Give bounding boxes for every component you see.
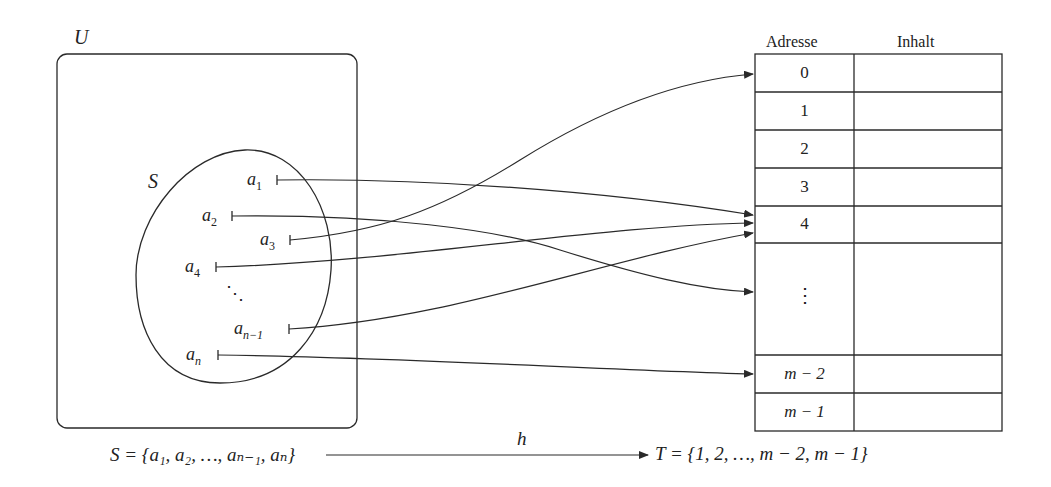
- arrow-a2: [232, 216, 753, 292]
- table-header-address: Adresse: [766, 33, 818, 51]
- domain-set-formula: S = {a₁, a₂, …, aₙ₋₁, aₙ}: [110, 443, 295, 466]
- element-sub: 4: [194, 266, 200, 280]
- table-cell-address: 0: [755, 63, 854, 83]
- element-an: an: [186, 344, 201, 369]
- table-header-content: Inhalt: [897, 33, 934, 51]
- function-label-h: h: [517, 428, 527, 450]
- element-a2: a2: [202, 205, 217, 230]
- table-cell-address: 2: [755, 139, 854, 159]
- table-cell-address: ⋮: [755, 283, 854, 307]
- table-cell-address: 3: [755, 177, 854, 197]
- element-an-1: an−1: [234, 318, 263, 343]
- element-base: a: [202, 205, 211, 225]
- arrow-an: [218, 355, 753, 374]
- element-sub: 2: [211, 215, 217, 229]
- element-base: a: [186, 344, 195, 364]
- arrow-an-1: [289, 233, 753, 329]
- element-base: a: [260, 229, 269, 249]
- element-base: a: [234, 318, 243, 338]
- codomain-set-formula: T = {1, 2, …, m − 2, m − 1}: [655, 443, 868, 465]
- hash-function-diagram: U S a1 a2 a3 a4 ⋱ an−1 an Adresse Inhalt…: [0, 0, 1051, 487]
- element-a4: a4: [185, 256, 200, 281]
- element-a1: a1: [247, 169, 262, 194]
- element-base: a: [247, 169, 256, 189]
- element-sub: n: [195, 354, 201, 368]
- element-base: a: [185, 256, 194, 276]
- table-cell-address: 1: [755, 101, 854, 121]
- set-s-label: S: [148, 170, 158, 193]
- arrow-a1: [277, 180, 753, 215]
- universe-label: U: [74, 26, 88, 49]
- table-cell-address: m − 1: [755, 402, 854, 422]
- element-dots: ⋱: [226, 282, 244, 304]
- table-cell-address: m − 2: [755, 364, 854, 384]
- arrow-a3: [290, 74, 753, 240]
- element-a3: a3: [260, 229, 275, 254]
- universe-box: [57, 54, 357, 428]
- element-sub: 3: [269, 239, 275, 253]
- element-sub: 1: [256, 179, 262, 193]
- table-cell-address: 4: [755, 214, 854, 234]
- element-sub: n−1: [243, 328, 263, 342]
- arrow-a4: [216, 223, 753, 267]
